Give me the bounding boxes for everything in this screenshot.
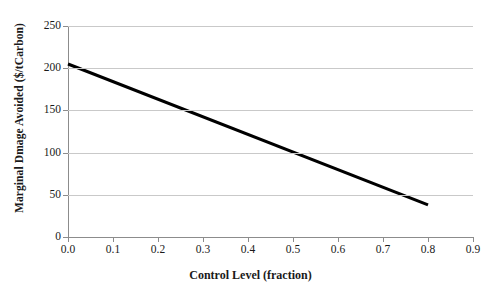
gridline-y-100 — [68, 153, 473, 154]
x-tick-mark-0.9 — [473, 237, 474, 242]
x-axis-tick-labels: 0.00.10.20.30.40.50.60.70.80.9 — [68, 244, 474, 260]
gridline-y-250 — [68, 26, 473, 27]
x-tick-label-0.3: 0.3 — [196, 244, 210, 256]
x-tick-label-0.2: 0.2 — [151, 244, 165, 256]
gridline-y-150 — [68, 110, 473, 111]
chart-figure: Marginal Dmage Avoided ($/tCarbon) 05010… — [0, 0, 501, 302]
x-tick-mark-0.5 — [293, 237, 294, 242]
gridline-y-200 — [68, 68, 473, 69]
y-tick-label-100: 100 — [44, 147, 61, 159]
y-tick-label-0: 0 — [55, 231, 61, 243]
series-line-0 — [68, 64, 428, 205]
y-axis-tick-labels: 050100150200250 — [28, 26, 61, 237]
x-tick-mark-0.1 — [113, 237, 114, 242]
y-tick-mark-200 — [63, 68, 68, 69]
y-tick-mark-150 — [63, 110, 68, 111]
x-tick-label-0.5: 0.5 — [286, 244, 300, 256]
y-tick-mark-250 — [63, 26, 68, 27]
y-tick-label-50: 50 — [50, 189, 62, 201]
x-tick-label-0.6: 0.6 — [331, 244, 345, 256]
gridline-y-50 — [68, 195, 473, 196]
y-axis-title: Marginal Dmage Avoided ($/tCarbon) — [13, 13, 25, 223]
x-tick-label-0.1: 0.1 — [106, 244, 120, 256]
y-tick-label-250: 250 — [44, 20, 61, 32]
x-tick-label-0.7: 0.7 — [376, 244, 390, 256]
x-tick-label-0.0: 0.0 — [61, 244, 75, 256]
x-tick-mark-0.6 — [338, 237, 339, 242]
x-tick-label-0.4: 0.4 — [241, 244, 255, 256]
x-tick-label-0.8: 0.8 — [421, 244, 435, 256]
y-tick-label-200: 200 — [44, 62, 61, 74]
y-tick-mark-100 — [63, 153, 68, 154]
x-tick-mark-0.4 — [248, 237, 249, 242]
data-series-line — [68, 26, 473, 237]
x-axis-title: Control Level (fraction) — [0, 268, 501, 283]
x-tick-mark-0.7 — [383, 237, 384, 242]
x-tick-label-0.9: 0.9 — [466, 244, 480, 256]
x-tick-mark-0.0 — [68, 237, 69, 242]
y-tick-mark-50 — [63, 195, 68, 196]
x-axis-line — [68, 237, 474, 238]
x-tick-mark-0.8 — [428, 237, 429, 242]
x-tick-mark-0.3 — [203, 237, 204, 242]
y-tick-label-150: 150 — [44, 105, 61, 117]
x-tick-mark-0.2 — [158, 237, 159, 242]
plot-area — [68, 26, 473, 237]
